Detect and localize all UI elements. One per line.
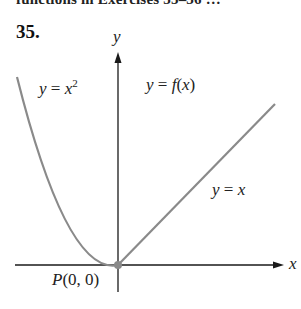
point-label: P(0, 0) [52, 270, 99, 290]
y-axis-arrow-icon [115, 52, 122, 63]
x-axis-arrow-icon [273, 262, 284, 269]
graph [0, 0, 301, 309]
point-p [114, 261, 122, 269]
function-label: y = f(x) [146, 75, 195, 95]
parabola-label: y = x2 [39, 77, 78, 99]
x-axis-label: x [289, 254, 297, 274]
y-axis-label: y [113, 27, 121, 47]
parabola-curve [17, 77, 118, 266]
line-curve [118, 104, 275, 265]
line-label: y = x [212, 180, 245, 200]
